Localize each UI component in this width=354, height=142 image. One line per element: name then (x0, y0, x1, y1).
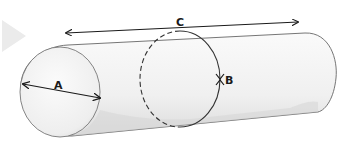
cylinder-diagram: A B C (0, 0, 354, 142)
label-a: A (54, 79, 63, 92)
label-c: C (176, 16, 184, 29)
label-b: B (225, 74, 233, 87)
cylinder-end-face (20, 47, 100, 137)
chevron-decoration-icon (2, 20, 26, 52)
